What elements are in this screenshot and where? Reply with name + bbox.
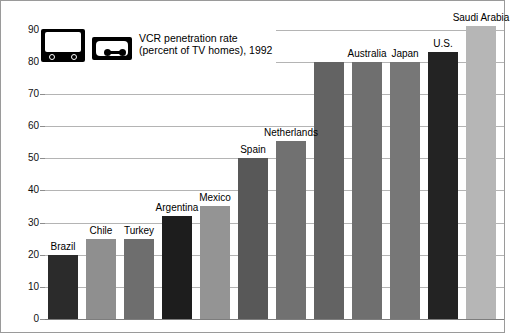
chart-title-line1: VCR penetration rate	[139, 32, 238, 44]
tv-screen	[45, 32, 81, 52]
y-axis-tick-label: 10	[1, 282, 39, 292]
y-axis-tick-label: 0	[1, 314, 39, 324]
y-axis-tick-label: 60	[1, 121, 39, 131]
chart-title-line2: (percent of TV homes), 1992	[139, 44, 272, 56]
y-axis-tick-label: 30	[1, 218, 39, 228]
bar	[390, 62, 420, 319]
television-icon	[41, 29, 85, 62]
bar	[352, 62, 382, 319]
tv-knob-right	[71, 54, 77, 60]
bar	[466, 26, 496, 319]
bar-label: U.S.	[411, 38, 475, 49]
bar-label: Mexico	[183, 192, 247, 203]
bar	[48, 255, 78, 319]
bar	[428, 52, 458, 319]
bar-label: Spain	[221, 144, 285, 155]
y-axis-tick-label: 50	[1, 153, 39, 163]
cassette-reel-right	[119, 49, 126, 56]
y-axis-tick-label: 80	[1, 57, 39, 67]
y-axis-tick-label: 70	[1, 89, 39, 99]
cassette-shell	[96, 41, 128, 56]
bar	[200, 206, 230, 319]
bar-label: Argentina	[145, 202, 209, 213]
vcr-cassette-icon	[92, 37, 132, 60]
chart-legend: VCR penetration rate(percent of TV homes…	[39, 27, 276, 65]
y-axis-tick-label: 90	[1, 25, 39, 35]
bar-label: Turkey	[107, 225, 171, 236]
bar	[276, 141, 306, 319]
tv-knob-left	[49, 54, 55, 60]
bar	[314, 62, 344, 319]
chart-title: VCR penetration rate(percent of TV homes…	[139, 29, 272, 56]
bar-label: Brazil	[31, 241, 95, 252]
bar-label: Netherlands	[259, 127, 323, 138]
y-axis-tick-label: 40	[1, 185, 39, 195]
axis-baseline	[45, 319, 504, 320]
bar-label: Japan	[373, 48, 437, 59]
bar-label: Saudi Arabia	[449, 12, 513, 23]
bar	[238, 158, 268, 319]
bar	[124, 239, 154, 319]
